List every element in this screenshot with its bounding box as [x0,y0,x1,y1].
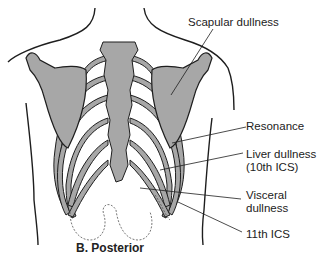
label-resonance: Resonance [246,120,304,132]
label-10th-ics: (10th ICS) [246,161,298,173]
label-liver-dullness: Liver dullness [246,148,316,160]
posterior-thorax-diagram: Scapular dullness Resonance Liver dullne… [0,0,322,261]
label-visceral-dullness: dullness [246,202,288,214]
leader-lines [140,29,246,232]
right-scapula [152,53,212,148]
figure-caption: B. Posterior [76,241,144,255]
visceral-outlines [70,195,170,240]
label-11th-ics: 11th ICS [246,228,290,240]
left-scapula [26,53,86,148]
label-scapular-dullness: Scapular dullness [188,16,279,28]
label-visceral: Visceral [246,189,287,201]
spine [100,42,138,182]
